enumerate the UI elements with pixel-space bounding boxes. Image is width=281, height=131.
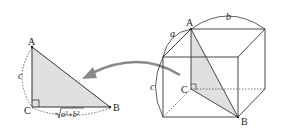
cube-edge-a-label: a [170, 28, 175, 39]
triangle-fill [32, 47, 110, 107]
triangle-side-c-label: c [18, 70, 23, 81]
figure: A C B c a²+b² [0, 0, 281, 131]
sqrt-radicand: a²+b² [61, 110, 80, 119]
cube-edge-b-label: b [226, 11, 231, 22]
triangle-label-B: B [113, 102, 120, 113]
cube-label-A: A [186, 17, 194, 28]
triangle-label-A: A [28, 36, 36, 47]
arrow-shaft [92, 62, 180, 75]
cube-label-C: C [181, 84, 188, 95]
curved-arrow [82, 62, 180, 79]
right-triangle: A C B c a²+b² [18, 36, 120, 119]
cube-label-B: B [241, 116, 248, 127]
cube-edge-c-label: c [150, 81, 155, 92]
sqrt-label: a²+b² [55, 108, 84, 119]
side-c-arc [22, 48, 32, 107]
arrow-head-icon [82, 67, 97, 79]
triangle-label-C: C [24, 105, 31, 116]
